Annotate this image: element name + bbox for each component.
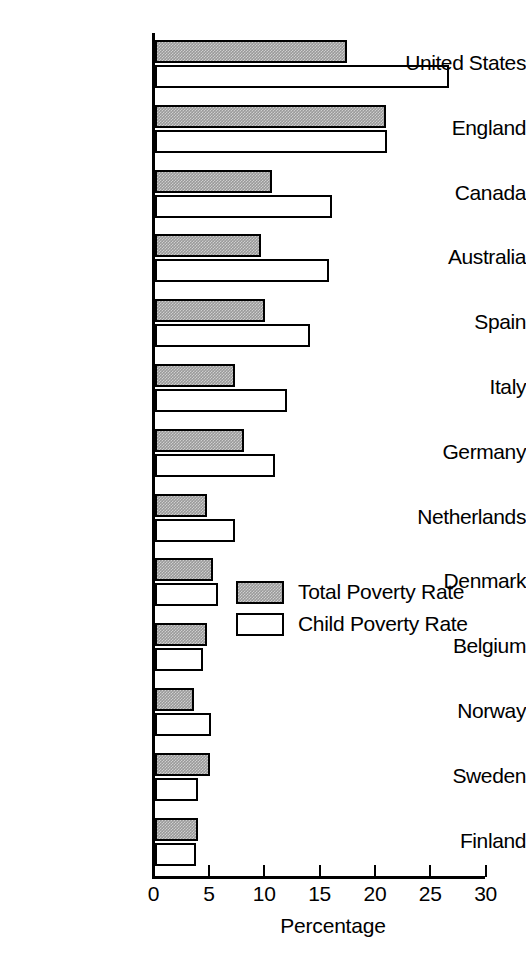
plot-area: 051015202530 United StatesEnglandCanadaA… (0, 0, 526, 976)
bar-total-poverty-rate (155, 558, 213, 581)
category-label-england: England (376, 116, 526, 140)
bar-total-poverty-rate (155, 299, 265, 322)
bar-total-poverty-rate (155, 623, 207, 646)
bar-child-poverty-rate (155, 130, 387, 153)
bar-total-poverty-rate (155, 364, 235, 387)
category-label-canada: Canada (376, 181, 526, 205)
legend-item: Child Poverty Rate (236, 608, 468, 640)
category-label-spain: Spain (376, 310, 526, 334)
legend-swatch (236, 581, 284, 604)
x-tick-30 (485, 865, 487, 877)
x-tick-10 (263, 865, 265, 877)
bar-total-poverty-rate (155, 105, 386, 128)
bar-child-poverty-rate (155, 648, 203, 671)
bar-total-poverty-rate (155, 818, 198, 841)
category-label-norway: Norway (376, 699, 526, 723)
x-tick-label-0: 0 (124, 882, 184, 906)
legend-label: Total Poverty Rate (298, 580, 464, 604)
category-label-sweden: Sweden (376, 764, 526, 788)
x-tick-5 (208, 865, 210, 877)
bar-child-poverty-rate (155, 583, 218, 606)
x-tick-label-15: 15 (290, 882, 350, 906)
legend-swatch (236, 613, 284, 636)
x-tick-20 (374, 865, 376, 877)
bar-child-poverty-rate (155, 778, 198, 801)
x-tick-25 (429, 865, 431, 877)
bar-total-poverty-rate (155, 234, 261, 257)
bar-child-poverty-rate (155, 195, 332, 218)
bar-child-poverty-rate (155, 843, 196, 866)
bar-child-poverty-rate (155, 324, 310, 347)
bar-total-poverty-rate (155, 429, 244, 452)
x-tick-label-25: 25 (400, 882, 460, 906)
bar-total-poverty-rate (155, 494, 207, 517)
bar-total-poverty-rate (155, 170, 272, 193)
category-label-netherlands: Netherlands (376, 505, 526, 529)
bar-child-poverty-rate (155, 454, 275, 477)
x-tick-label-10: 10 (234, 882, 294, 906)
legend-label: Child Poverty Rate (298, 612, 468, 636)
bar-child-poverty-rate (155, 713, 211, 736)
bar-child-poverty-rate (155, 259, 329, 282)
chart-legend: Total Poverty RateChild Poverty Rate (236, 576, 468, 640)
bar-total-poverty-rate (155, 40, 347, 63)
x-tick-label-5: 5 (179, 882, 239, 906)
x-tick-15 (319, 865, 321, 877)
x-tick-label-30: 30 (456, 882, 516, 906)
category-label-italy: Italy (376, 375, 526, 399)
x-axis-title: Percentage (0, 914, 526, 938)
category-label-australia: Australia (376, 245, 526, 269)
bar-total-poverty-rate (155, 688, 194, 711)
legend-item: Total Poverty Rate (236, 576, 468, 608)
category-label-finland: Finland (376, 829, 526, 853)
x-tick-0 (153, 865, 155, 877)
category-label-germany: Germany (376, 440, 526, 464)
bar-child-poverty-rate (155, 389, 287, 412)
bar-total-poverty-rate (155, 753, 210, 776)
poverty-rate-bar-chart: 051015202530 United StatesEnglandCanadaA… (0, 0, 526, 976)
x-tick-label-20: 20 (345, 882, 405, 906)
bar-child-poverty-rate (155, 519, 235, 542)
category-label-united-states: United States (376, 51, 526, 75)
